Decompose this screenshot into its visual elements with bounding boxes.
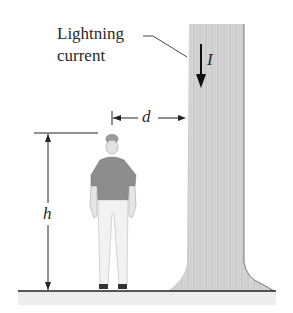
ground-strip bbox=[18, 291, 276, 305]
distance-symbol: d bbox=[142, 107, 151, 126]
height-symbol: h bbox=[43, 204, 52, 223]
tree-trunk bbox=[168, 24, 274, 291]
lightning-label-line1: Lightning bbox=[57, 24, 124, 43]
lightning-label-line2: current bbox=[57, 46, 105, 65]
diagram-canvas bbox=[0, 0, 293, 313]
current-symbol: I bbox=[207, 50, 213, 69]
person-figure bbox=[90, 134, 136, 289]
leader-line bbox=[143, 36, 187, 57]
